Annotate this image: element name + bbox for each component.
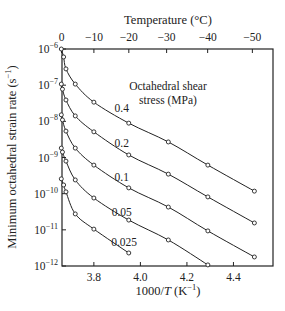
data-point-marker (127, 251, 131, 255)
data-point-marker (59, 113, 63, 117)
y-tick-label: 10−7 (38, 77, 58, 91)
data-point-marker (64, 190, 68, 194)
data-point-marker (92, 163, 96, 167)
data-point-marker (73, 146, 77, 150)
data-point-marker (60, 150, 64, 154)
legend-title-line-1: Octahedral shear (129, 80, 207, 92)
y-axis-ticks: 10−610−710−810−910−1010−1110−12 (34, 41, 66, 272)
top-tick-label: −50 (243, 31, 261, 43)
data-point-marker (73, 114, 77, 118)
legend-title: Octahedral shear stress (MPa) (129, 80, 207, 107)
data-point-marker (166, 238, 170, 242)
data-point-marker (206, 163, 210, 167)
data-point-marker (127, 153, 131, 157)
data-point-marker (73, 178, 77, 182)
top-tick-label: −40 (199, 31, 217, 43)
data-point-marker (62, 55, 66, 59)
top-tick-label: −10 (85, 31, 103, 43)
data-point-marker (127, 218, 131, 222)
series-0.05: 0.05 (59, 146, 210, 267)
data-point-marker (73, 82, 77, 86)
y-tick-label: 10−11 (34, 222, 58, 236)
data-point-marker (73, 212, 77, 216)
data-point-marker (252, 189, 256, 193)
data-point-marker (92, 130, 96, 134)
series-label: 0.4 (115, 102, 130, 114)
series-label: 0.2 (115, 137, 130, 149)
x-tick-label: 4.0 (133, 271, 148, 283)
x-axis-title: 1000/T (K−1) (136, 282, 201, 298)
series-line (61, 49, 254, 191)
data-point-marker (166, 205, 170, 209)
data-point-marker (64, 67, 68, 71)
x-tick-label: 3.8 (87, 271, 102, 283)
y-tick-label: 10−9 (38, 150, 58, 164)
y-tick-label: 10−12 (34, 258, 58, 272)
data-point-marker (166, 172, 170, 176)
series-label: 0.1 (115, 171, 130, 183)
data-point-marker (92, 100, 96, 104)
data-point-marker (92, 196, 96, 200)
series-0.1: 0.1 (59, 113, 256, 259)
x-axis-ticks: 3.84.04.24.4 (87, 262, 241, 283)
series-label: 0.025 (111, 236, 137, 248)
data-point-marker (127, 121, 131, 125)
data-point-marker (59, 146, 63, 150)
legend-title-line-2: stress (MPa) (139, 94, 197, 107)
data-point-marker (206, 229, 210, 233)
data-point-marker (166, 140, 170, 144)
top-tick-label: −30 (158, 31, 176, 43)
series-line (61, 115, 254, 257)
x-tick-label: 4.4 (226, 271, 241, 283)
series-label: 0.05 (112, 206, 132, 218)
data-point-marker (127, 186, 131, 190)
data-point-marker (60, 87, 64, 91)
top-axis-title: Temperature (°C) (124, 13, 212, 27)
data-point-marker (60, 118, 64, 122)
data-point-marker (252, 255, 256, 259)
data-point-marker (59, 82, 63, 86)
data-point-marker (64, 98, 68, 102)
data-point-marker (252, 221, 256, 225)
data-point-marker (62, 183, 66, 187)
series-0.4: 0.4 (59, 47, 256, 193)
data-point-marker (206, 263, 210, 267)
strain-rate-chart: Temperature (°C) 0−10−20−30−40−50 10−610… (0, 0, 285, 311)
data-point-marker (92, 227, 96, 231)
top-tick-label: 0 (59, 31, 65, 43)
y-tick-label: 10−8 (38, 113, 58, 127)
y-axis-title: Minimum octahedral strain rate (s−1) (3, 65, 19, 248)
data-point-marker (64, 159, 68, 163)
data-point-marker (206, 195, 210, 199)
data-point-marker (59, 177, 63, 181)
y-tick-label: 10−6 (38, 41, 58, 55)
y-tick-label: 10−10 (34, 186, 58, 200)
data-point-marker (59, 47, 63, 51)
top-tick-label: −20 (120, 31, 138, 43)
data-point-marker (64, 129, 68, 133)
top-axis-ticks: 0−10−20−30−40−50 (59, 31, 262, 53)
